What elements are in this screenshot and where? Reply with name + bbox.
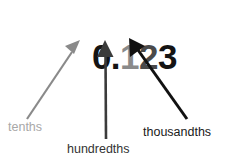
arrow-thousandths-shaft <box>138 50 187 119</box>
place-value-figure: 0.123 tenths hundredths thousandths <box>0 0 232 168</box>
arrow-hundredths-head <box>97 40 114 57</box>
label-tenths: tenths <box>8 120 42 134</box>
arrow-hundredths-shaft <box>106 54 107 139</box>
label-thousandths: thousandths <box>143 125 211 139</box>
arrow-tenths <box>27 40 80 119</box>
arrow-tenths-head <box>65 40 80 54</box>
arrow-hundredths <box>97 40 114 139</box>
label-hundredths: hundredths <box>67 142 130 156</box>
arrow-thousandths <box>129 38 187 119</box>
arrow-tenths-shaft <box>27 52 72 119</box>
